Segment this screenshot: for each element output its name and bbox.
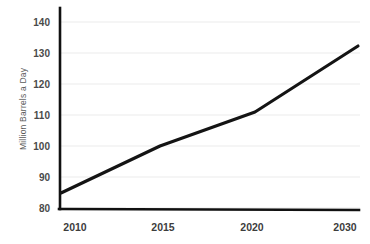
x-tick-label-2015: 2015 [151,221,175,233]
y-axis-title: Million Barrels a Day [18,67,28,150]
chart-canvas: 140 130 120 110 100 90 80 2010 2015 2020… [0,0,370,244]
x-axis-spine [59,209,359,210]
chart-background [0,0,370,244]
y-tick-label-100: 100 [33,141,50,152]
y-tick-label-130: 130 [33,48,50,59]
y-tick-label-80: 80 [39,203,51,214]
y-tick-label-90: 90 [39,172,51,183]
x-tick-label-2020: 2020 [240,221,264,233]
x-tick-label-2030: 2030 [333,221,357,233]
y-tick-label-110: 110 [34,110,51,121]
x-tick-label-2010: 2010 [63,221,87,233]
line-chart: 140 130 120 110 100 90 80 2010 2015 2020… [0,0,370,244]
y-tick-label-140: 140 [33,17,50,28]
y-tick-label-120: 120 [33,79,50,90]
